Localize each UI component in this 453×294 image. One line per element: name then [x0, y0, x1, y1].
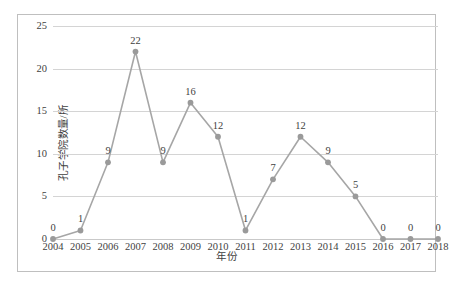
data-point-2013	[298, 134, 304, 140]
data-point-label-2017: 0	[408, 223, 413, 234]
data-point-2016	[380, 236, 386, 242]
data-point-label-2012: 7	[270, 163, 275, 174]
data-point-label-2018: 0	[435, 223, 440, 234]
data-point-label-2009: 16	[185, 86, 196, 97]
data-point-2018	[435, 236, 441, 242]
data-point-2004	[50, 236, 56, 242]
data-point-label-2011: 1	[243, 214, 248, 225]
data-point-2008	[160, 159, 166, 165]
series-polyline	[53, 52, 438, 239]
y-tick-label-20: 20	[37, 63, 48, 74]
y-tick-label-15: 15	[37, 106, 48, 117]
data-point-2012	[270, 176, 276, 182]
data-point-2006	[105, 159, 111, 165]
data-series-line	[53, 26, 438, 239]
plot-area: 0510152025 20042005200620072008200920102…	[53, 26, 438, 239]
data-point-label-2006: 9	[105, 146, 110, 157]
data-point-2011	[243, 228, 249, 234]
data-point-2015	[353, 194, 359, 200]
data-point-2007	[133, 49, 139, 55]
data-point-label-2004: 0	[50, 223, 55, 234]
data-point-label-2014: 9	[325, 146, 330, 157]
data-point-label-2008: 9	[160, 146, 165, 157]
data-point-2017	[408, 236, 414, 242]
data-point-2005	[78, 228, 84, 234]
data-point-2009	[188, 100, 194, 106]
data-point-label-2005: 1	[78, 214, 83, 225]
data-point-label-2013: 12	[295, 120, 306, 131]
y-tick-label-25: 25	[37, 21, 48, 32]
data-point-label-2010: 12	[213, 120, 224, 131]
data-point-label-2016: 0	[380, 223, 385, 234]
data-point-2010	[215, 134, 221, 140]
data-point-2014	[325, 159, 331, 165]
data-point-label-2015: 5	[353, 180, 358, 191]
chart-figure-frame: 孔子学院数量/所 0510152025 20042005200620072008…	[17, 14, 436, 272]
y-tick-label-5: 5	[42, 191, 47, 202]
y-tick-label-10: 10	[37, 149, 48, 160]
x-axis-title: 年份	[18, 248, 435, 263]
data-point-label-2007: 22	[130, 35, 141, 46]
